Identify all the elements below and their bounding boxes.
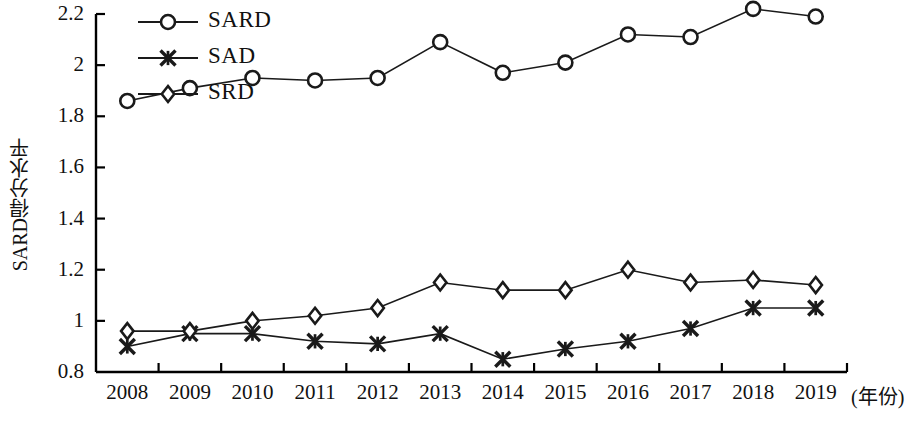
marker-circle <box>183 81 197 95</box>
marker-circle <box>371 71 385 85</box>
marker-circle <box>809 10 823 24</box>
marker-diamond <box>434 275 446 291</box>
series-sad <box>127 308 815 359</box>
y-axis-tick-label: 1.2 <box>58 257 84 282</box>
marker-star-x <box>683 321 698 336</box>
marker-circle <box>433 35 447 49</box>
marker-diamond <box>497 282 509 298</box>
y-axis-tick-label: 1.8 <box>58 103 84 128</box>
marker-circle <box>621 27 635 41</box>
marker-star-x <box>433 326 448 341</box>
y-axis-tick-label: 1.6 <box>58 154 84 179</box>
y-axis-tick-label: 2 <box>74 52 85 77</box>
y-axis-tick-label: 0.8 <box>58 359 84 384</box>
y-axis-tick-label: 2.2 <box>58 1 84 26</box>
series-markers-srd <box>121 262 822 339</box>
marker-diamond <box>246 313 258 329</box>
marker-diamond <box>809 277 821 293</box>
y-axis-tick-label: 1 <box>74 308 85 333</box>
legend-label-srd: SRD <box>208 79 254 105</box>
marker-star-x <box>495 352 510 367</box>
marker-diamond <box>371 300 383 316</box>
marker-diamond <box>559 282 571 298</box>
legend-label-sard: SARD <box>208 7 271 33</box>
marker-circle <box>120 94 134 108</box>
marker-diamond <box>747 272 759 288</box>
legend-label-sad: SAD <box>208 43 256 69</box>
marker-circle <box>308 73 322 87</box>
marker-diamond <box>121 323 133 339</box>
line-chart: SARD得分水平 0.811.21.41.61.822.220082009201… <box>0 0 918 438</box>
marker-diamond <box>162 86 174 102</box>
series-line <box>127 308 815 359</box>
plot-canvas <box>0 0 918 438</box>
marker-circle <box>746 2 760 16</box>
marker-circle <box>496 66 510 80</box>
x-axis-unit-label: (年份) <box>851 381 904 410</box>
marker-circle <box>161 15 175 29</box>
marker-diamond <box>622 262 634 278</box>
x-axis-tick-label: 2019 <box>776 380 856 405</box>
marker-diamond <box>684 275 696 291</box>
marker-circle <box>684 30 698 44</box>
marker-diamond <box>309 308 321 324</box>
y-axis-tick-label: 1.4 <box>58 206 84 231</box>
marker-circle <box>558 56 572 70</box>
